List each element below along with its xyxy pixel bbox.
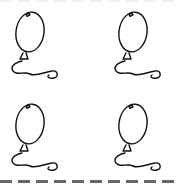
- balloon-icon: [0, 97, 70, 182]
- top-cut-line: [0, 0, 178, 2]
- coloring-sheet: [0, 0, 178, 185]
- bottom-cut-line: [0, 180, 178, 183]
- balloon-icon: [0, 5, 70, 90]
- balloon-icon: [103, 97, 173, 182]
- balloon-icon: [103, 5, 173, 90]
